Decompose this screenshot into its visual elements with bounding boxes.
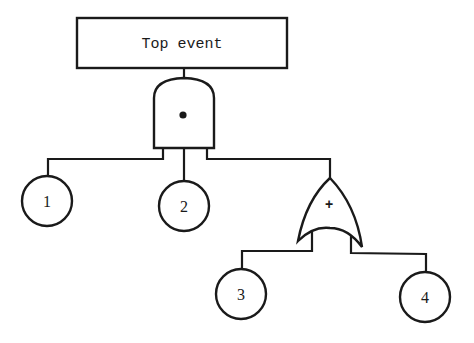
basic-event-4: 4 (400, 272, 450, 322)
event-3-label: 3 (237, 286, 245, 303)
top-event: Top event (77, 18, 287, 68)
or-gate-shape (298, 178, 362, 247)
event-1-label: 1 (43, 193, 51, 210)
event-4-label: 4 (421, 289, 429, 306)
basic-event-2: 2 (159, 181, 209, 231)
connector-and-to-event-1 (48, 148, 163, 176)
basic-event-3: 3 (216, 269, 266, 319)
fault-tree-diagram: Top event 1 2 + 3 4 (0, 0, 474, 343)
connector-and-to-or (207, 148, 330, 178)
and-symbol-dot-icon (179, 111, 186, 118)
basic-event-1: 1 (22, 176, 72, 226)
or-symbol-plus-icon: + (325, 196, 333, 212)
and-gate (154, 78, 214, 148)
or-gate: + (298, 178, 362, 247)
top-event-label: Top event (141, 36, 222, 53)
event-2-label: 2 (180, 198, 188, 215)
